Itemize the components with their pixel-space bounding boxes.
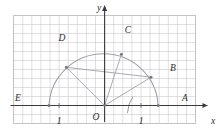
label-tick-x-right: 1 [139,116,144,126]
point-marker-C[interactable] [120,53,123,56]
label-C: C [125,25,132,35]
segment-DB [66,67,151,77]
segment-OC [105,54,122,105]
point-marker-E[interactable] [48,104,51,107]
label-tick-x-left: 1 [57,116,62,126]
point-marker-D[interactable] [65,66,68,69]
label-D: D [58,33,66,43]
x-axis-arrow-icon [203,103,208,108]
segment-OD [66,67,104,105]
segment-OB [105,77,151,105]
label-origin: O [93,112,100,122]
point-marker-O [103,104,106,107]
axes [11,5,208,122]
label-E: E [14,93,21,103]
label-B: B [170,63,176,73]
point-marker-B[interactable] [150,76,153,79]
radius-segments [66,54,151,105]
coordinate-plane-figure: A B C D E O x y 1 1 [0,0,221,133]
point-marker-A[interactable] [157,104,160,107]
label-y-axis: y [96,3,102,13]
point-markers [48,53,160,107]
label-A: A [181,93,188,103]
figure-root: A B C D E O x y 1 1 [0,0,221,133]
y-axis-arrow-icon [102,5,107,11]
semicircle-arc [49,54,158,106]
point-labels: A B C D E [14,25,188,103]
label-x-axis: x [210,116,216,126]
